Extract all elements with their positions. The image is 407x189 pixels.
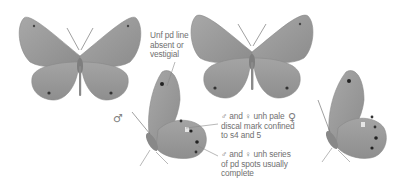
male-upperside-butterfly — [19, 17, 141, 100]
female-symbol: ♀ — [288, 111, 296, 124]
annotation-discal-mark: ♂ and ♀ unh pale discal mark confined to… — [221, 112, 295, 141]
butterfly-figure — [0, 0, 407, 189]
male-underside-butterfly — [132, 71, 206, 166]
female-upperside-butterfly — [191, 15, 313, 98]
female-underside-butterfly — [318, 71, 386, 162]
annotation-unf-pd-line: Unf pd line absent or vestigial — [150, 31, 189, 60]
male-symbol: ♂ — [113, 112, 123, 125]
annotation-pd-spots: ♂ and ♀ unh series of pd spots usually c… — [221, 150, 291, 179]
